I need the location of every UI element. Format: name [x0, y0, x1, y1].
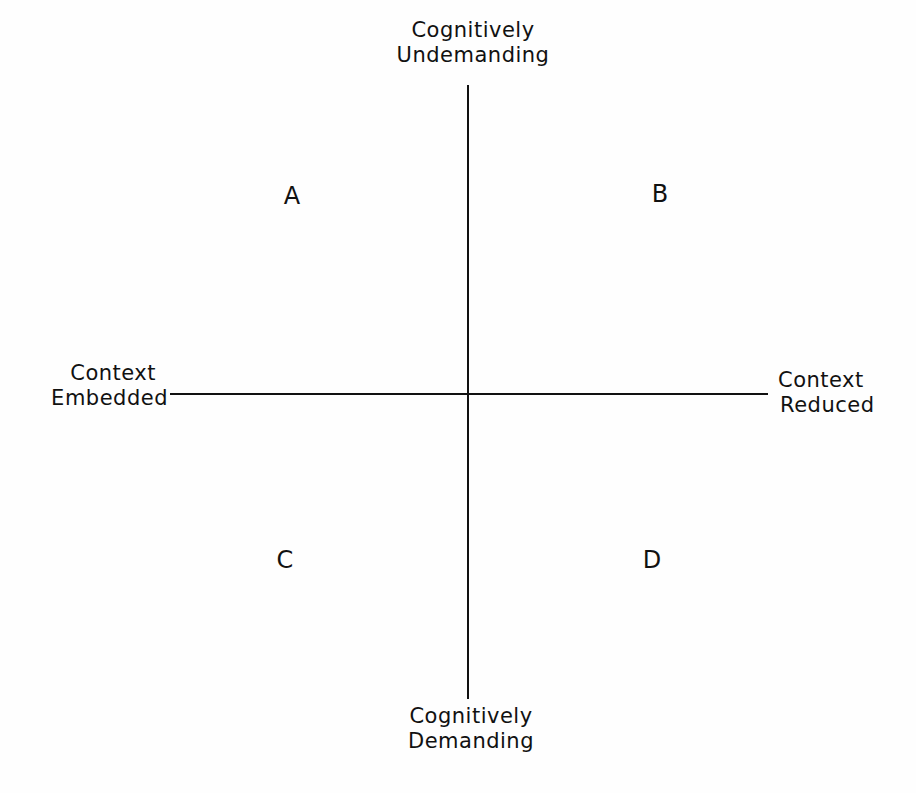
left-axis-label: Context Embedded	[18, 361, 168, 411]
bottom-axis-label: Cognitively Demanding	[366, 704, 576, 754]
right-axis-label: Context Reduced	[770, 368, 900, 418]
top-label-line-2: Undemanding	[368, 43, 578, 68]
horizontal-axis-line	[170, 393, 768, 395]
bottom-label-line-1: Cognitively	[366, 704, 576, 729]
left-label-line-2: Embedded	[18, 386, 168, 411]
quadrant-b-label: B	[645, 180, 675, 208]
right-label-line-2: Reduced	[770, 393, 900, 418]
quadrant-diagram: Cognitively Undemanding Cognitively Dema…	[0, 0, 916, 793]
right-label-line-1: Context	[770, 368, 900, 393]
bottom-label-line-2: Demanding	[366, 729, 576, 754]
quadrant-c-label: C	[270, 546, 300, 574]
quadrant-d-label: D	[637, 546, 667, 574]
vertical-axis-line	[467, 85, 469, 699]
top-label-line-1: Cognitively	[368, 18, 578, 43]
quadrant-a-label: A	[277, 182, 307, 210]
left-label-line-1: Context	[18, 361, 168, 386]
top-axis-label: Cognitively Undemanding	[368, 18, 578, 68]
